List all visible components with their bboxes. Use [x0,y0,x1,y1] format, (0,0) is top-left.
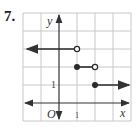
open-point-2-2 [92,64,97,69]
y-axis-label: y [46,14,53,28]
closed-point-2-1 [93,83,98,88]
x-tick-label: 1 [75,111,79,120]
open-point-1-3 [74,46,79,51]
x-axis-label: x [119,106,126,120]
origin-label: O [47,107,56,121]
y-tick-label: 1 [51,79,56,90]
closed-point-1-2 [75,65,80,70]
step-function-graph: y x O 1 1 [0,0,136,130]
